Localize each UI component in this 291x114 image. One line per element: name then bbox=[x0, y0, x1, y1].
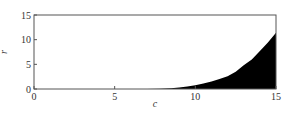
y-tick-label: 5 bbox=[26, 59, 31, 70]
area-series bbox=[34, 33, 276, 89]
y-axis: 051015 bbox=[21, 10, 37, 95]
x-tick-label: 15 bbox=[271, 91, 281, 102]
y-tick-label: 0 bbox=[26, 84, 31, 95]
x-tick-label: 0 bbox=[32, 91, 37, 102]
x-tick-label: 5 bbox=[112, 91, 117, 102]
area-fill bbox=[34, 33, 276, 89]
y-axis-label: r bbox=[0, 50, 9, 54]
area-chart: 051015 051015 c r bbox=[0, 0, 291, 114]
y-tick-label: 15 bbox=[21, 10, 31, 21]
y-tick-label: 10 bbox=[21, 34, 31, 45]
x-axis-label: c bbox=[153, 98, 158, 109]
x-tick-label: 10 bbox=[190, 91, 200, 102]
